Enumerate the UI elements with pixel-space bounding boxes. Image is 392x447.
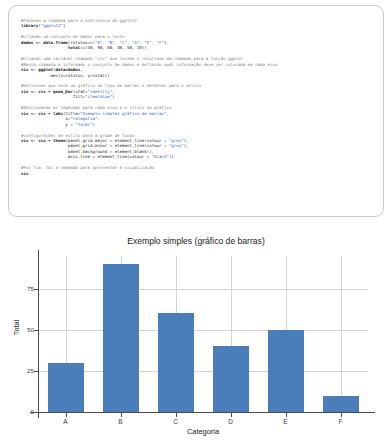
code-token-plain: , bbox=[80, 67, 82, 72]
code-token-kw: vis <- vis + theme bbox=[21, 138, 65, 143]
code-token-kw: library bbox=[21, 23, 38, 28]
y-tick-mark bbox=[34, 412, 38, 413]
bar-B bbox=[103, 264, 139, 412]
code-token-cmt: #Definindo que será um gráfico do tipo d… bbox=[21, 83, 201, 88]
chart-title: Exemplo simples (gráfico de barras) bbox=[0, 236, 392, 246]
bar-A bbox=[48, 363, 84, 412]
x-tick-mark bbox=[66, 413, 67, 417]
y-axis-title: Total bbox=[12, 300, 21, 356]
bar-D bbox=[213, 346, 249, 412]
code-token-cmt: #Criando um conjunto de dados para o tes… bbox=[21, 34, 125, 39]
chart-figure: Exemplo simples (gráfico de barras) 0255… bbox=[0, 218, 392, 447]
y-tick-label: 25 bbox=[12, 367, 34, 374]
x-tick-mark bbox=[341, 413, 342, 417]
code-token-str: "A", "B", "C", "D", "E", "F" bbox=[95, 40, 164, 45]
code-token-cmt: #Configurações de estilo para a grade de… bbox=[21, 133, 134, 138]
x-tick-label-E: E bbox=[271, 418, 301, 425]
code-token-plain: , bbox=[166, 111, 168, 116]
bar-C bbox=[158, 313, 194, 412]
code-token-plain: ), bbox=[184, 138, 189, 143]
code-token-plain: ) bbox=[112, 94, 114, 99]
code-token-str: "Total" bbox=[75, 122, 92, 127]
code-editor-card: #Fazendo a chamada para a biblioteca do … bbox=[8, 5, 384, 217]
x-axis-title: Categoria bbox=[38, 427, 368, 436]
code-token-plain: axis.line = element_line(colour = bbox=[21, 154, 152, 159]
r-code-block[interactable]: #Fazendo a chamada para a biblioteca do … bbox=[21, 18, 379, 176]
code-token-str: "steelblue" bbox=[85, 94, 112, 99]
code-token-kw: dados <- data.frame bbox=[21, 40, 68, 45]
code-token-kw: vis <- ggplot bbox=[21, 67, 53, 72]
x-tick-label-C: C bbox=[161, 418, 191, 425]
x-axis-line bbox=[30, 412, 375, 413]
bar-E bbox=[268, 330, 304, 412]
code-token-plain bbox=[21, 45, 68, 50]
bar-series bbox=[38, 256, 368, 412]
code-token-plain: x= bbox=[21, 116, 70, 121]
y-tick-mark bbox=[34, 330, 38, 331]
code-token-plain: (title= bbox=[63, 111, 80, 116]
plot-panel bbox=[38, 256, 368, 412]
code-token-cmt: #Nessa chamada é informado o conjunto de… bbox=[21, 62, 277, 67]
x-tick-mark bbox=[231, 413, 232, 417]
code-token-kw: total bbox=[68, 45, 80, 50]
bar-F bbox=[323, 396, 359, 412]
code-token-kw: vis bbox=[21, 171, 28, 176]
code-token-str: "grey" bbox=[169, 143, 184, 148]
code-token-plain: panel.background = element_blank(), bbox=[21, 149, 154, 154]
y-tick-mark bbox=[34, 371, 38, 372]
code-token-plain: y = bbox=[21, 122, 75, 127]
code-token-plain: (stat= bbox=[73, 89, 88, 94]
code-token-str: "Exemplo simples gráfico de barras" bbox=[80, 111, 166, 116]
code-token-plain: panel.grid.minor = element_line(colour = bbox=[21, 143, 169, 148]
code-token-plain: ) bbox=[93, 122, 95, 127]
code-token-plain: (panel.grid.major = element_line(colour … bbox=[65, 138, 169, 143]
code-token-str: "black" bbox=[152, 154, 169, 159]
code-token-str: "Categoria" bbox=[70, 116, 97, 121]
code-token-kw: data=dados bbox=[56, 67, 81, 72]
x-tick-mark bbox=[121, 413, 122, 417]
code-token-plain: ), bbox=[184, 143, 189, 148]
code-token-plain: , bbox=[97, 116, 99, 121]
code-token-kw: vis <- vis + geom_bar bbox=[21, 89, 73, 94]
x-tick-label-B: B bbox=[106, 418, 136, 425]
x-tick-label-D: D bbox=[216, 418, 246, 425]
code-token-kw: vis <- vis + labs bbox=[21, 111, 63, 116]
y-axis-line bbox=[38, 250, 39, 418]
y-tick-label: 75 bbox=[12, 285, 34, 292]
x-tick-mark bbox=[286, 413, 287, 417]
code-token-plain: aes(x=rotulos, y=total)) bbox=[21, 73, 110, 78]
code-token-str: "identity" bbox=[88, 89, 113, 94]
code-token-plain: ), bbox=[164, 40, 169, 45]
y-tick-mark bbox=[34, 289, 38, 290]
code-token-cmt: #Fazendo a chamada para a biblioteca do … bbox=[21, 18, 137, 23]
code-token-plain: (rotulos=c( bbox=[68, 40, 95, 45]
x-tick-mark bbox=[176, 413, 177, 417]
code-token-str: "ggplot2" bbox=[41, 23, 63, 28]
x-tick-label-A: A bbox=[51, 418, 81, 425]
code-token-cmt: #Adicionando as legendas para cada eixo … bbox=[21, 105, 171, 110]
code-token-plain: ) bbox=[63, 23, 65, 28]
code-token-plain: , bbox=[112, 89, 114, 94]
code-token-cmt: #Criando uma variável chamada "vis" que … bbox=[21, 56, 243, 61]
code-token-plain: )) bbox=[169, 154, 174, 159]
code-line: vis bbox=[21, 171, 379, 176]
y-tick-label: 0 bbox=[12, 408, 34, 415]
code-token-plain: fill= bbox=[21, 94, 85, 99]
code-token-str: "grey" bbox=[169, 138, 184, 143]
x-tick-label-F: F bbox=[326, 418, 356, 425]
code-token-plain: =c(30, 90, 60, 40, 50, 10)) bbox=[80, 45, 147, 50]
code-token-cmt: #Por fim, faz a chamada para apresentar … bbox=[21, 165, 154, 170]
